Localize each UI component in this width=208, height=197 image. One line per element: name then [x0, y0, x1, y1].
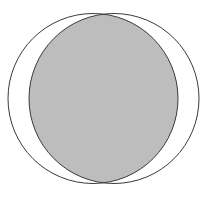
- venn-diagram: [0, 0, 208, 197]
